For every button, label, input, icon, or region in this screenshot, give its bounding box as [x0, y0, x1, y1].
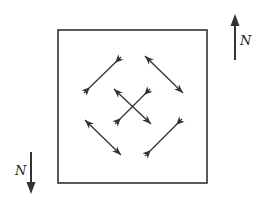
arrow-segments	[81, 54, 184, 158]
north-arrow-down: N	[14, 152, 36, 194]
arrow-down-icon	[27, 182, 36, 194]
double-arrow-upper-left-sw-ne	[81, 54, 123, 95]
north-label: N	[14, 163, 27, 178]
arrow-up-icon	[231, 14, 240, 26]
segment-line	[85, 120, 121, 155]
double-arrow-lower-left-nw-se	[85, 120, 121, 155]
double-arrow-upper-right-nw-se	[145, 56, 183, 93]
north-indicators: NN	[14, 14, 252, 194]
strain-diagram: NN	[0, 0, 262, 202]
north-label: N	[239, 33, 252, 48]
north-arrow-up: N	[231, 14, 253, 60]
segment-line	[145, 56, 183, 93]
